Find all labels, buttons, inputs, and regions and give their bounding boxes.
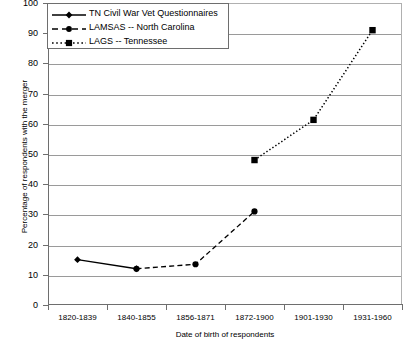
gridline: [49, 95, 401, 96]
legend-item-lags-tennessee: LAGS -- Tennessee: [51, 34, 224, 48]
legend-label: LAGS -- Tennessee: [89, 36, 167, 46]
x-axis-tick: [225, 305, 226, 310]
y-axis-tick-label: 90: [0, 29, 38, 38]
gridline: [49, 185, 401, 186]
line-chart: 0102030405060708090100 1820-18391840-185…: [0, 0, 410, 349]
y-axis-tick: [43, 184, 48, 185]
x-axis-tick-label: 1820-1839: [48, 313, 107, 322]
y-axis-title: Percentage of respondents with the merge…: [20, 47, 29, 267]
y-axis-tick: [43, 124, 48, 125]
x-axis-tick: [107, 305, 108, 310]
gridline: [49, 276, 401, 277]
legend-item-lamsas-north-carolina: LAMSAS -- North Carolina: [51, 20, 224, 34]
legend-label: TN Civil War Vet Questionnaires: [89, 8, 218, 18]
x-axis-tick: [343, 305, 344, 310]
y-axis-tick: [43, 214, 48, 215]
legend-sample-solid-diamond-icon: [51, 7, 87, 19]
legend-item-tn-civil-war-vet-questionnaires: TN Civil War Vet Questionnaires: [51, 6, 224, 20]
gridline: [49, 125, 401, 126]
x-axis-tick-label: 1872-1900: [225, 313, 284, 322]
x-axis-title: Date of birth of respondents: [48, 330, 402, 339]
x-axis-tick-label: 1901-1930: [284, 313, 343, 322]
legend-sample-dashed-circle-icon: [51, 21, 87, 33]
y-axis-tick-label: 100: [0, 0, 38, 8]
legend-label: LAMSAS -- North Carolina: [89, 22, 195, 32]
x-axis-tick: [284, 305, 285, 310]
legend: TN Civil War Vet Questionnaires LAMSAS -…: [47, 3, 229, 49]
y-axis-tick: [43, 275, 48, 276]
legend-sample-dotted-square-icon: [51, 35, 87, 47]
x-axis-tick: [402, 305, 403, 310]
y-axis-tick-label: 0: [0, 301, 38, 310]
gridline: [49, 155, 401, 156]
y-axis-tick-label: 10: [0, 271, 38, 280]
y-axis-tick: [43, 154, 48, 155]
x-axis-tick-label: 1931-1960: [343, 313, 402, 322]
y-axis-tick: [43, 94, 48, 95]
y-axis-tick: [43, 63, 48, 64]
x-axis-tick-label: 1856-1871: [166, 313, 225, 322]
gridline: [49, 64, 401, 65]
x-axis-tick: [166, 305, 167, 310]
x-axis-tick-label: 1840-1855: [107, 313, 166, 322]
x-axis-tick: [48, 305, 49, 310]
gridline: [49, 246, 401, 247]
y-axis-tick: [43, 245, 48, 246]
gridline: [49, 215, 401, 216]
